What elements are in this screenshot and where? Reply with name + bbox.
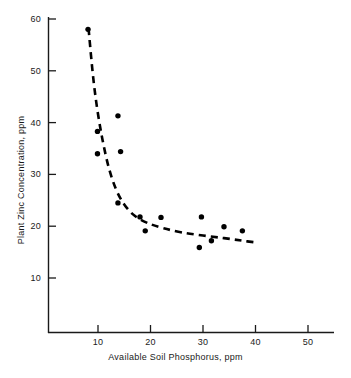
y-axis-tick-label: 10 (8, 273, 41, 283)
y-axis-tick-label: 60 (8, 14, 41, 24)
x-axis-ticks (98, 325, 308, 333)
y-axis-tick-label: 50 (8, 66, 41, 76)
data-point (115, 200, 120, 205)
data-point (85, 27, 90, 32)
data-point (137, 214, 142, 219)
scatter-plot-canvas (0, 0, 351, 378)
data-point (209, 238, 214, 243)
data-point (158, 215, 163, 220)
data-point (240, 228, 245, 233)
data-point (143, 228, 148, 233)
chart-figure: 102030405060 1020304050 Available Soil P… (0, 0, 351, 378)
y-axis-ticks (49, 19, 57, 278)
x-axis-title: Available Soil Phosphorus, ppm (0, 352, 351, 362)
fitted-trend-curve (89, 28, 259, 242)
x-axis-tick-label: 20 (145, 337, 155, 347)
x-axis-tick-label: 30 (198, 337, 208, 347)
data-point (221, 224, 226, 229)
y-axis-title: Plant Zinc Concentration, ppm (16, 100, 26, 260)
x-axis-tick-label: 10 (93, 337, 103, 347)
data-point (115, 113, 120, 118)
data-point (197, 245, 202, 250)
x-axis-tick-label: 40 (250, 337, 260, 347)
data-point (95, 129, 100, 134)
data-point (118, 149, 123, 154)
x-axis-tick-label: 50 (303, 337, 313, 347)
data-point (199, 214, 204, 219)
data-point-group (85, 27, 245, 250)
data-point (95, 151, 100, 156)
